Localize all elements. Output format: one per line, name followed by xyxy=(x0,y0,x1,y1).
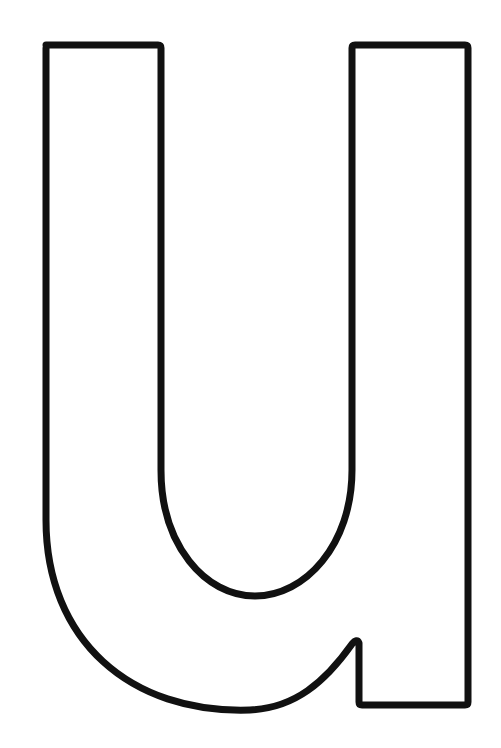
letter-u-outline xyxy=(0,0,501,748)
letter-u-shape xyxy=(46,45,468,710)
